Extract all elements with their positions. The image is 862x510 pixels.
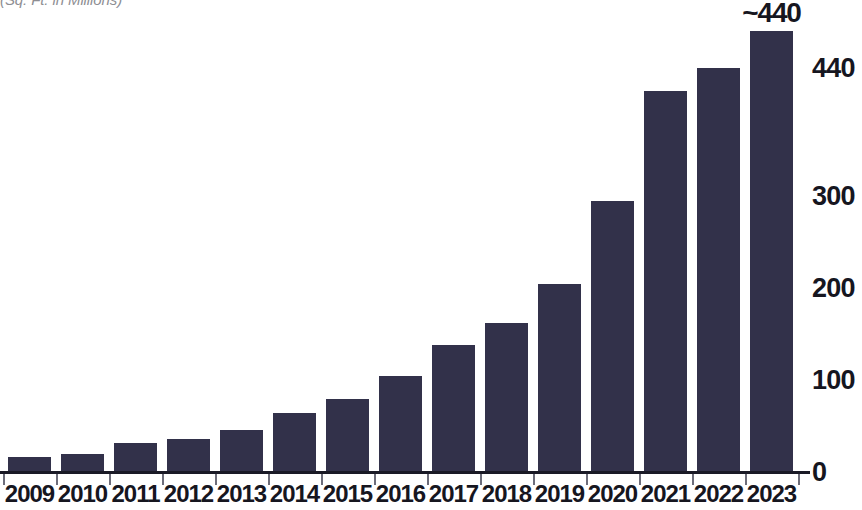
bar-2021 — [644, 91, 687, 472]
plot-area — [0, 0, 805, 473]
bar-2017 — [432, 345, 475, 472]
x-axis-label-2022: 2022 — [693, 480, 744, 508]
x-axis-label-2011: 2011 — [110, 480, 161, 508]
bar-2023 — [750, 31, 793, 472]
x-axis-label-2012: 2012 — [163, 480, 214, 508]
x-axis-label-2010: 2010 — [57, 480, 108, 508]
bar-2019 — [538, 284, 581, 472]
y-axis-label-0: 0 — [812, 457, 826, 488]
bar-2011 — [114, 443, 157, 472]
x-axis-label-2014: 2014 — [269, 480, 320, 508]
chart-screenshot: (Sq. Ft. in Millions) 200920102011201220… — [0, 0, 862, 510]
x-axis-label-2019: 2019 — [534, 480, 585, 508]
x-axis-label-2015: 2015 — [322, 480, 373, 508]
bar-2010 — [61, 454, 104, 472]
bar-2012 — [167, 439, 210, 472]
bar-2018 — [485, 323, 528, 472]
x-axis-label-2013: 2013 — [216, 480, 267, 508]
bar-2015 — [326, 399, 369, 473]
x-axis-label-2016: 2016 — [375, 480, 426, 508]
y-axis-label-440: 440 — [812, 52, 855, 83]
x-axis-labels: 2009201020112012201320142015201620172018… — [0, 480, 805, 510]
x-axis-label-2021: 2021 — [640, 480, 691, 508]
x-axis-label-2009: 2009 — [4, 480, 55, 508]
y-axis-label-100: 100 — [812, 365, 855, 396]
bar-2009 — [8, 457, 51, 472]
bar-2013 — [220, 430, 263, 472]
bar-series — [0, 0, 805, 473]
x-axis-label-2017: 2017 — [428, 480, 479, 508]
bar-value-annotation-2023: ~440 — [742, 0, 800, 29]
x-axis-line — [0, 471, 810, 474]
y-axis-label-200: 200 — [812, 273, 855, 304]
x-axis-label-2018: 2018 — [481, 480, 532, 508]
bar-2022 — [697, 68, 740, 472]
x-axis-label-2020: 2020 — [587, 480, 638, 508]
y-axis-label-300: 300 — [812, 181, 855, 212]
bar-2020 — [591, 201, 634, 472]
bar-2016 — [379, 376, 422, 472]
x-axis-label-2023: 2023 — [746, 480, 797, 508]
bar-2014 — [273, 413, 316, 472]
